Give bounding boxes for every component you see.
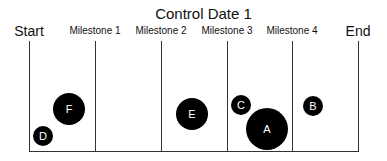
milestone-line [161,41,162,152]
milestone-line [227,41,228,152]
timeline-baseline [29,151,359,152]
milestone-line [29,41,30,152]
milestone-label: Milestone 2 [135,25,186,36]
milestone-label: Milestone 3 [201,25,252,36]
milestone-label: Milestone 4 [266,25,317,36]
milestone-label: Milestone 1 [69,25,120,36]
bubble-b: B [303,96,323,116]
bubble-c: C [231,95,251,115]
bubble-e: E [176,98,208,130]
milestone-line [358,41,359,152]
milestone-line [95,41,96,152]
milestone-label: Start [14,23,44,39]
bubble-f: F [53,93,85,125]
bubble-a: A [246,108,288,150]
diagram-title: Control Date 1 [0,5,387,22]
milestone-line [292,41,293,152]
bubble-d: D [33,126,53,146]
milestone-label: End [346,23,371,39]
